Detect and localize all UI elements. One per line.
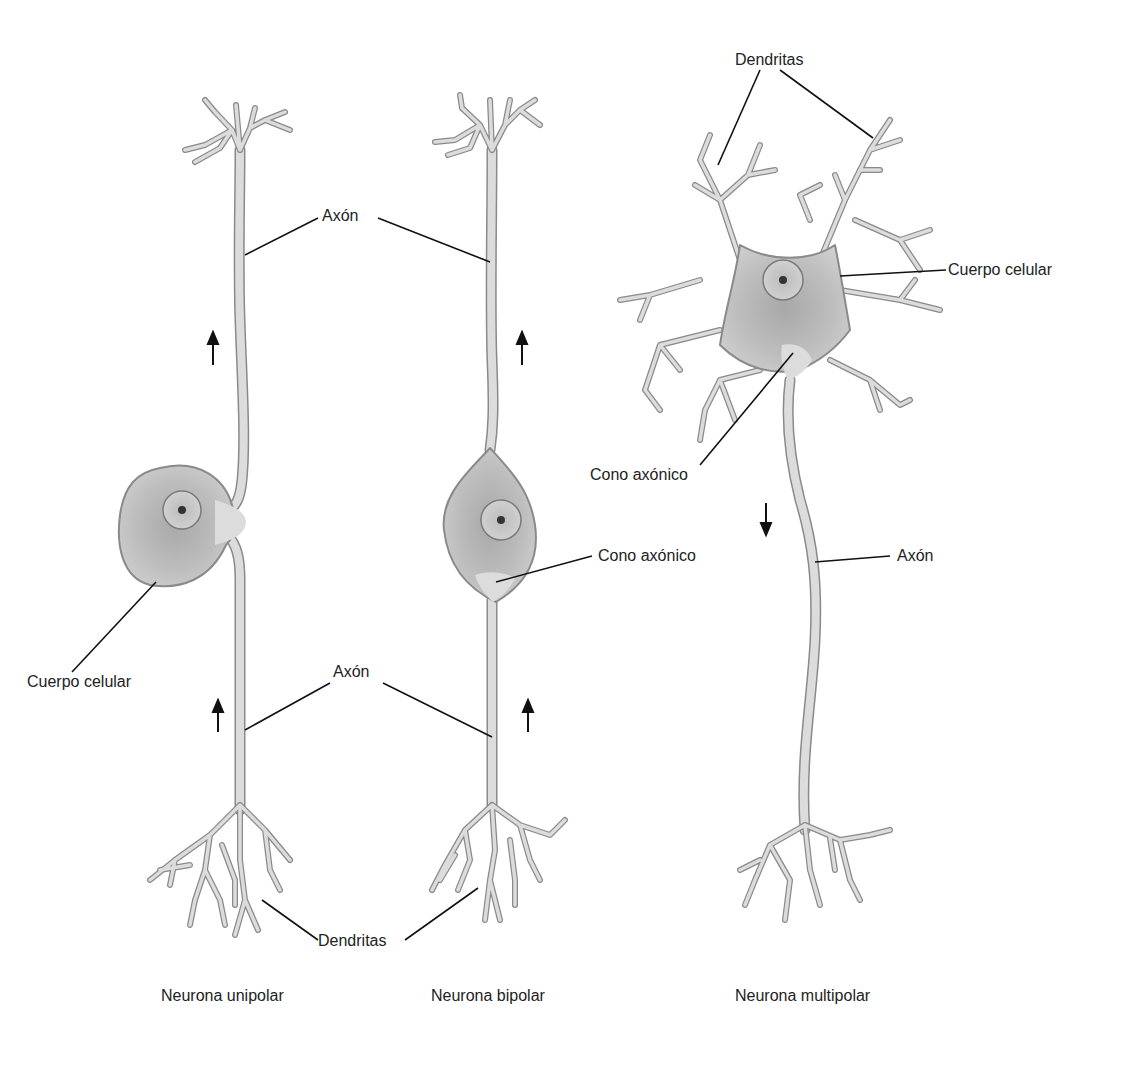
caption-multipolar: Neurona multipolar: [735, 988, 870, 1004]
label-multipolar-soma: Cuerpo celular: [948, 262, 1052, 278]
neuron-diagram: Axón Axón Cuerpo celular Cono axónico De…: [0, 0, 1133, 1069]
label-axon-top: Axón: [322, 208, 358, 224]
label-axon-bottom: Axón: [333, 664, 369, 680]
arrow-up-icon: [523, 700, 533, 732]
unipolar-neuron: [119, 100, 290, 935]
arrow-up-icon: [213, 700, 223, 732]
multipolar-neuron: [620, 120, 940, 920]
neuron-illustration: [0, 0, 1133, 1069]
arrow-up-icon: [208, 332, 218, 365]
label-dendrites-bottom: Dendritas: [318, 933, 386, 949]
arrow-down-icon: [761, 503, 771, 535]
label-unipolar-soma: Cuerpo celular: [27, 674, 131, 690]
caption-unipolar: Neurona unipolar: [161, 988, 284, 1004]
label-multipolar-hillock: Cono axónico: [590, 467, 688, 483]
label-bipolar-hillock: Cono axónico: [598, 548, 696, 564]
caption-bipolar: Neurona bipolar: [431, 988, 545, 1004]
arrow-up-icon: [517, 332, 527, 365]
bipolar-neuron: [432, 95, 565, 920]
label-multipolar-axon: Axón: [897, 548, 933, 564]
label-multipolar-dendrites: Dendritas: [735, 52, 803, 68]
